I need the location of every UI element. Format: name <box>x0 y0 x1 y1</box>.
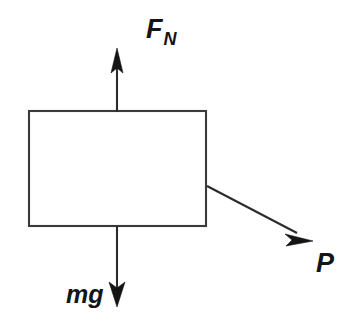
normal-force-label: FN <box>146 14 178 49</box>
weight-label: mg <box>66 280 104 308</box>
normal-force-vector <box>111 48 123 112</box>
diagram-canvas: FN mg P <box>0 0 362 336</box>
applied-force-label: P <box>316 248 335 278</box>
applied-force-arrowhead <box>285 234 313 246</box>
applied-force-vector <box>207 186 313 246</box>
block-rectangle <box>29 111 206 226</box>
free-body-diagram: FN mg P <box>0 0 362 336</box>
applied-force-shaft <box>207 186 297 233</box>
normal-force-label-main: F <box>146 14 164 44</box>
weight-vector <box>109 226 125 307</box>
normal-force-label-sub: N <box>164 29 178 49</box>
